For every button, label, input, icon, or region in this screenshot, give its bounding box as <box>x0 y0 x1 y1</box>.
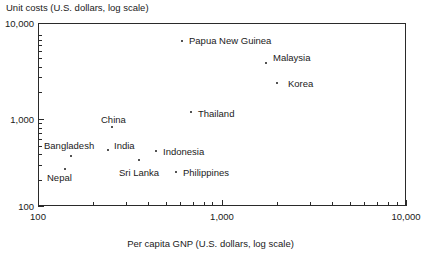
y-axis-minor-tick <box>38 154 42 155</box>
x-axis-tick-label: 1,000 <box>182 211 262 222</box>
x-axis-minor-tick <box>350 202 351 206</box>
y-axis-minor-tick <box>38 67 42 68</box>
y-axis-major-tick <box>38 23 44 24</box>
x-axis-title: Per capita GNP (U.S. dollars, log scale) <box>0 238 421 250</box>
y-axis-minor-tick <box>38 139 42 140</box>
data-point-label: China <box>101 114 126 125</box>
data-point-label: Nepal <box>47 172 72 183</box>
x-axis-major-tick <box>222 200 223 206</box>
x-axis-minor-tick <box>204 202 205 206</box>
y-axis-minor-tick <box>38 180 42 181</box>
x-axis-minor-tick <box>93 202 94 206</box>
y-axis-minor-tick <box>38 165 42 166</box>
x-axis-minor-tick <box>180 202 181 206</box>
scatter-chart-figure: Unit costs (U.S. dollars, log scale) 100… <box>0 0 421 259</box>
x-axis-minor-tick <box>310 202 311 206</box>
y-axis-minor-tick <box>38 51 42 52</box>
y-axis-minor-tick <box>38 133 42 134</box>
y-axis-minor-tick <box>38 40 42 41</box>
x-axis-minor-tick <box>388 202 389 206</box>
y-axis-minor-tick <box>38 58 42 59</box>
y-axis-tick-label: 1,000 <box>0 114 34 125</box>
x-axis-minor-tick <box>193 202 194 206</box>
data-point-label: Sri Lanka <box>119 167 159 178</box>
data-point-label: Philippines <box>183 167 229 178</box>
y-axis-major-tick <box>38 119 44 120</box>
x-axis-tick-label: 10,000 <box>366 211 421 222</box>
data-point-label: Indonesia <box>163 146 204 157</box>
data-point-label: India <box>114 140 135 151</box>
x-axis-minor-tick <box>126 202 127 206</box>
x-axis-major-tick <box>38 200 39 206</box>
y-axis-tick-label: 10,000 <box>0 18 34 29</box>
data-point-label: Bangladesh <box>44 140 94 151</box>
x-axis-tick-label: 100 <box>0 211 78 222</box>
x-axis-minor-tick <box>212 202 213 206</box>
data-point-label: Malaysia <box>273 52 311 63</box>
y-axis-minor-tick <box>38 92 42 93</box>
y-axis-minor-tick <box>38 77 42 78</box>
x-axis-minor-tick <box>332 202 333 206</box>
x-axis-minor-tick <box>397 202 398 206</box>
y-axis-title: Unit costs (U.S. dollars, log scale) <box>6 2 149 14</box>
data-point-label: Korea <box>288 78 313 89</box>
x-axis-minor-tick <box>364 202 365 206</box>
y-axis-minor-tick <box>38 45 42 46</box>
x-axis-minor-tick <box>277 202 278 206</box>
x-axis-minor-tick <box>377 202 378 206</box>
y-axis-minor-tick <box>38 35 42 36</box>
x-axis-minor-tick <box>148 202 149 206</box>
x-axis-minor-tick <box>166 202 167 206</box>
data-point-label: Thailand <box>198 108 234 119</box>
y-axis-minor-tick <box>38 128 42 129</box>
y-axis-minor-tick <box>38 123 42 124</box>
data-point-label: Papua New Guinea <box>189 35 271 46</box>
y-axis-major-tick <box>38 206 44 207</box>
y-axis-minor-tick <box>38 146 42 147</box>
x-axis-major-tick <box>406 200 407 206</box>
